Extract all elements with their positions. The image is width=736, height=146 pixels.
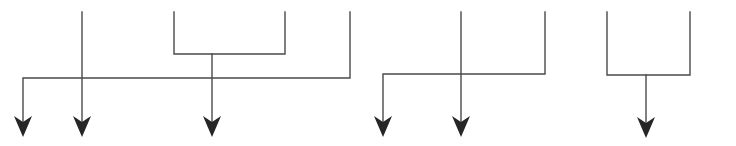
connector-group-1 xyxy=(14,12,350,137)
g1-bracket-line xyxy=(174,12,285,54)
connector-group-3 xyxy=(607,12,690,138)
g2-right-route-line xyxy=(383,12,545,125)
g3-bracket-line xyxy=(607,12,690,75)
connector-diagram xyxy=(0,0,736,146)
connector-group-2 xyxy=(374,12,545,137)
g1-right-route-line xyxy=(23,12,350,125)
